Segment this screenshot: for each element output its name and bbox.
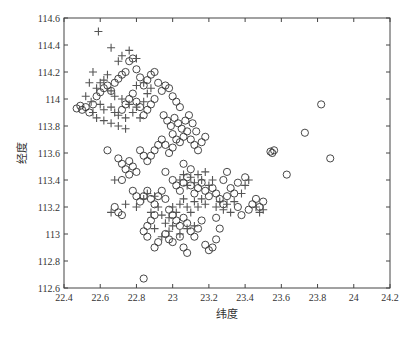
plot-frame	[64, 18, 390, 288]
y-tick-label: 113.6	[38, 148, 60, 159]
x-axis-label: 纬度	[216, 307, 238, 321]
y-tick-label: 113.2	[38, 202, 60, 213]
y-tick-label: 114.2	[38, 67, 60, 78]
x-tick-label: 23.6	[273, 292, 291, 303]
x-tick-label: 22.6	[91, 292, 109, 303]
y-tick-label: 114.6	[38, 13, 60, 24]
y-tick-label: 113.8	[38, 121, 60, 132]
y-axis-label: 经度	[15, 142, 29, 164]
x-tick-label: 23.8	[309, 292, 327, 303]
y-tick-label: 113	[45, 229, 60, 240]
y-tick-label: 112.8	[38, 256, 60, 267]
x-tick-label: 22.8	[128, 292, 146, 303]
y-tick-label: 112.6	[38, 283, 60, 294]
x-tick-label: 24.2	[381, 292, 399, 303]
x-tick-label: 22.4	[55, 292, 73, 303]
y-tick-label: 114.4	[38, 40, 60, 51]
x-tick-label: 24	[349, 292, 359, 303]
y-tick-label: 113.4	[38, 175, 60, 186]
x-tick-label: 23.2	[200, 292, 218, 303]
y-tick-label: 114	[45, 94, 60, 105]
x-tick-label: 23.4	[236, 292, 254, 303]
x-tick-label: 23	[168, 292, 178, 303]
scatter-chart: 22.422.622.82323.223.423.623.82424.2 112…	[0, 0, 412, 340]
